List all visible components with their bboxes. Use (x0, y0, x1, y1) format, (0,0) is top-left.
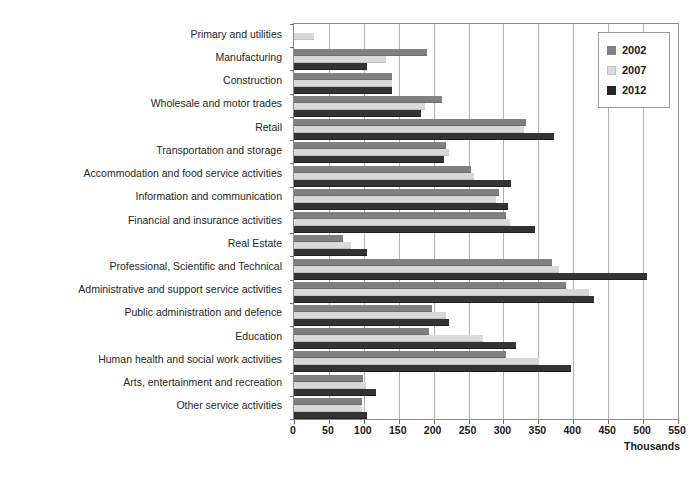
y-axis-tick (290, 419, 294, 420)
category-label: Public administration and defence (4, 307, 282, 318)
x-axis-title: Thousands (624, 440, 680, 452)
bar-2002 (294, 282, 566, 289)
bar-2002 (294, 189, 499, 196)
category-label: Professional, Scientific and Technical (4, 261, 282, 272)
bar-2012 (294, 389, 376, 396)
y-axis-tick (290, 140, 294, 141)
bar-2002 (294, 351, 506, 358)
y-axis-tick (290, 210, 294, 211)
bar-2007 (294, 103, 425, 110)
x-tick-label: 500 (633, 424, 651, 436)
y-axis-tick (290, 233, 294, 234)
category-label: Information and communication (4, 191, 282, 202)
category-label: Arts, entertainment and recreation (4, 377, 282, 388)
legend-item-2012[interactable]: 2012 (607, 80, 663, 100)
x-tick-label: 400 (564, 424, 582, 436)
category-label: Retail (4, 122, 282, 133)
category-label: Wholesale and motor trades (4, 98, 282, 109)
bar-2007 (294, 80, 392, 87)
x-tick-label: 200 (424, 424, 442, 436)
legend-swatch-2012-icon (607, 86, 616, 95)
category-axis-labels: Primary and utilitiesManufacturingConstr… (4, 23, 290, 418)
bar-2007 (294, 289, 589, 296)
bar-2012 (294, 87, 392, 94)
category-label: Human health and social work activities (4, 354, 282, 365)
bar-2012 (294, 412, 367, 419)
bar-2012 (294, 249, 367, 256)
legend-swatch-2007-icon (607, 66, 616, 75)
x-tick-label: 50 (322, 424, 334, 436)
category-label: Accommodation and food service activitie… (4, 168, 282, 179)
legend-item-2002[interactable]: 2002 (607, 40, 663, 60)
bar-2007 (294, 126, 524, 133)
bar-2002 (294, 119, 526, 126)
bar-2012 (294, 180, 511, 187)
x-tick-label: 250 (459, 424, 477, 436)
bar-2012 (294, 156, 444, 163)
bar-2002 (294, 96, 442, 103)
legend-label-2012: 2012 (622, 84, 646, 96)
bar-2012 (294, 226, 535, 233)
bar-2012 (294, 110, 421, 117)
bar-2007 (294, 358, 539, 365)
bar-2012 (294, 342, 516, 349)
y-axis-tick (290, 187, 294, 188)
bar-2002 (294, 259, 552, 266)
bar-2002 (294, 328, 429, 335)
category-label: Primary and utilities (4, 29, 282, 40)
legend: 2002 2007 2012 (598, 32, 670, 108)
x-tick-label: 550 (668, 424, 686, 436)
bar-2002 (294, 166, 471, 173)
x-tick-label: 100 (354, 424, 372, 436)
x-axis-tick-labels: 050100150200250300350400450500550 (293, 424, 677, 438)
category-label: Other service activities (4, 400, 282, 411)
category-label: Real Estate (4, 238, 282, 249)
x-tick-label: 300 (494, 424, 512, 436)
bar-2007 (294, 335, 483, 342)
cut-off-chart-title (110, 0, 530, 8)
bar-2007 (294, 382, 366, 389)
y-axis-tick (290, 24, 294, 25)
bar-2002 (294, 212, 506, 219)
gridline (573, 24, 574, 419)
bar-2002 (294, 142, 446, 149)
bar-2012 (294, 273, 647, 280)
bar-2007 (294, 33, 314, 40)
bar-2002 (294, 235, 343, 242)
legend-item-2007[interactable]: 2007 (607, 60, 663, 80)
bar-2007 (294, 173, 474, 180)
x-tick-label: 450 (598, 424, 616, 436)
bar-2012 (294, 296, 594, 303)
bar-2007 (294, 266, 559, 273)
bar-2007 (294, 219, 510, 226)
y-axis-tick (290, 256, 294, 257)
y-axis-tick (290, 396, 294, 397)
y-axis-tick (290, 349, 294, 350)
bar-2012 (294, 319, 449, 326)
y-axis-tick (290, 280, 294, 281)
y-axis-tick (290, 47, 294, 48)
y-axis-tick (290, 70, 294, 71)
bar-2007 (294, 149, 449, 156)
legend-swatch-2002-icon (607, 46, 616, 55)
y-axis-tick (290, 163, 294, 164)
y-axis-tick (290, 94, 294, 95)
bar-2012 (294, 133, 554, 140)
bar-2002 (294, 73, 392, 80)
y-axis-tick (290, 326, 294, 327)
bar-2007 (294, 196, 496, 203)
bar-2007 (294, 312, 446, 319)
category-label: Manufacturing (4, 52, 282, 63)
bar-2002 (294, 398, 362, 405)
y-axis-tick (290, 373, 294, 374)
category-label: Administrative and support service activ… (4, 284, 282, 295)
bar-2002 (294, 305, 432, 312)
category-label: Education (4, 331, 282, 342)
bar-2002 (294, 49, 427, 56)
y-axis-tick (290, 303, 294, 304)
bar-2012 (294, 365, 571, 372)
legend-label-2007: 2007 (622, 64, 646, 76)
bar-2007 (294, 405, 362, 412)
x-tick-label: 350 (529, 424, 547, 436)
x-tick-label: 150 (389, 424, 407, 436)
